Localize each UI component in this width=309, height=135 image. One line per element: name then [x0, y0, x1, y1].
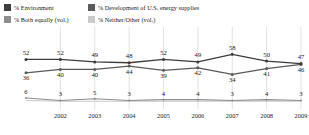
data-label: 39 [160, 72, 167, 79]
data-label: 48 [126, 52, 133, 59]
legend-swatch-both-equally-icon [4, 16, 11, 23]
x-axis-tick-2008: 2008 [260, 111, 273, 120]
data-point [163, 99, 165, 101]
data-label: 34 [229, 76, 236, 83]
legend-item-energy: % Development of U.S. energy supplies [88, 2, 199, 13]
data-label: 46 [298, 66, 305, 73]
data-label: 6 [24, 88, 28, 95]
data-label: 40 [91, 71, 98, 78]
x-axis-tick-2003: 2003 [88, 111, 101, 120]
data-label: 41 [263, 70, 270, 77]
data-point [25, 58, 28, 61]
legend-row-2: % Both equally (vol.) % Neither/Other (v… [4, 14, 309, 25]
legend-item-both-equally: % Both equally (vol.) [4, 14, 88, 25]
data-label: 52 [57, 49, 64, 56]
data-label: 42 [195, 69, 202, 76]
legend-item-environment: % Environment [4, 2, 88, 13]
data-labels-series-0: 525249485249585047 [23, 44, 305, 60]
data-labels-series-1: 364040443942344146 [23, 66, 305, 83]
chart-plot-area: 5252494852495850473640404439423441466353… [0, 27, 309, 109]
data-point [25, 97, 27, 99]
x-axis-tick-2006: 2006 [191, 111, 204, 120]
data-label: 49 [91, 51, 98, 58]
data-point [93, 60, 96, 63]
data-point [231, 99, 233, 101]
data-label: 3 [59, 90, 63, 97]
legend-label-both-equally: % Both equally (vol.) [14, 16, 69, 23]
data-point [266, 99, 268, 101]
line-chart-svg: 5252494852495850473640404439423441466353… [0, 27, 309, 109]
data-label: 4 [162, 90, 166, 97]
data-label: 3 [127, 90, 131, 97]
x-axis-tick-2005: 2005 [157, 111, 170, 120]
x-axis-tick-2004: 2004 [123, 111, 136, 120]
data-label: 47 [298, 53, 305, 60]
data-point [231, 53, 234, 56]
data-label: 36 [23, 74, 30, 81]
data-label: 3 [299, 90, 303, 97]
legend-label-environment: % Environment [14, 4, 54, 11]
data-point [300, 62, 303, 65]
x-axis: 20022003200420052006200720082009 [0, 109, 309, 123]
x-axis-tick-2009: 2009 [295, 111, 308, 120]
legend-swatch-energy-icon [88, 4, 95, 11]
data-point [197, 99, 199, 101]
data-label: 49 [195, 51, 202, 58]
data-label: 58 [229, 44, 236, 51]
data-label: 44 [126, 68, 133, 75]
data-point [162, 58, 165, 61]
legend-item-neither-other: % Neither/Other (vol.) [88, 14, 155, 25]
data-label: 4 [196, 90, 200, 97]
x-axis-tick-2007: 2007 [226, 111, 239, 120]
data-labels-series-2: 635344343 [24, 88, 303, 98]
legend-label-neither-other: % Neither/Other (vol.) [98, 16, 155, 23]
data-point [94, 98, 96, 100]
data-label: 40 [57, 71, 64, 78]
data-label: 50 [263, 51, 270, 58]
legend-swatch-environment-icon [4, 4, 11, 11]
legend-swatch-neither-other-icon [88, 16, 95, 23]
data-point [300, 99, 302, 101]
data-label: 3 [231, 90, 235, 97]
data-label: 4 [265, 90, 269, 97]
data-point [59, 99, 61, 101]
legend-row-1: % Environment % Development of U.S. ener… [4, 2, 309, 13]
data-point [128, 61, 131, 64]
chart-footnote [2, 126, 182, 135]
data-point [59, 58, 62, 61]
chart-legend: % Environment % Development of U.S. ener… [0, 0, 309, 27]
data-point [265, 60, 268, 63]
data-point [196, 60, 199, 63]
data-point [128, 99, 130, 101]
data-label: 52 [160, 49, 167, 56]
gridlines [60, 27, 301, 109]
legend-label-energy: % Development of U.S. energy supplies [98, 4, 199, 11]
data-label: 52 [23, 49, 30, 56]
x-axis-tick-2002: 2002 [54, 111, 67, 120]
data-label: 5 [93, 89, 97, 96]
